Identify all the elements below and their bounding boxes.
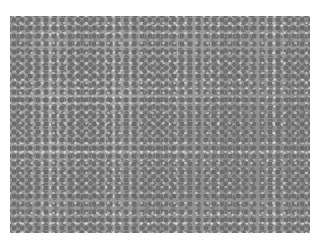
- micrograph-image: [10, 16, 310, 233]
